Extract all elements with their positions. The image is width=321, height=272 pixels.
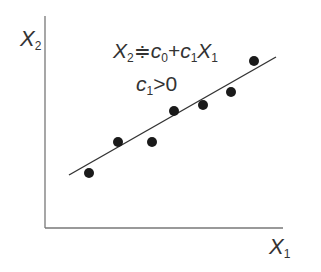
data-point — [113, 137, 123, 147]
y-axis-label: X2 — [19, 26, 42, 53]
data-point — [169, 106, 179, 116]
x-axis-label: X1 — [268, 234, 291, 261]
data-point — [226, 87, 236, 97]
scatter-diagram: X2 X1 X2≑c0+c1X1 c1>0 — [0, 0, 321, 272]
data-point — [249, 56, 259, 66]
data-point — [198, 100, 208, 110]
data-point — [147, 137, 157, 147]
slope-condition: c1>0 — [136, 72, 177, 98]
data-point — [84, 168, 94, 178]
regression-equation: X2≑c0+c1X1 — [112, 39, 218, 65]
